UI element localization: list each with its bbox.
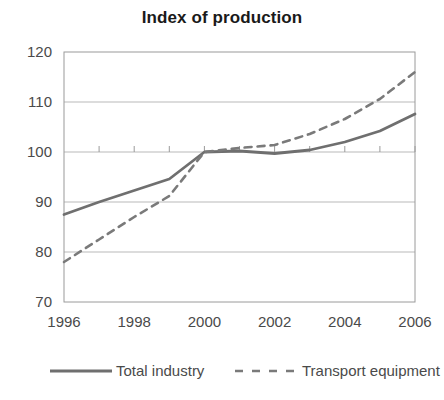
x-tick-label-2004: 2004 xyxy=(328,313,361,330)
legend-label-transport-equipment: Transport equipment xyxy=(302,362,441,379)
chart-plot: 120110100908070 199619982000200220042006… xyxy=(0,0,444,400)
series-line-transport-equipment xyxy=(64,72,415,262)
y-tick-label-70: 70 xyxy=(35,293,52,310)
legend-label-total-industry: Total industry xyxy=(116,362,205,379)
y-tick-label-80: 80 xyxy=(35,243,52,260)
y-tick-label-90: 90 xyxy=(35,193,52,210)
x-tick-label-1998: 1998 xyxy=(118,313,151,330)
y-axis-tick-labels: 120110100908070 xyxy=(27,43,52,310)
plot-frame xyxy=(64,52,415,302)
y-tick-label-110: 110 xyxy=(28,93,52,110)
x-tick-label-1996: 1996 xyxy=(47,313,80,330)
y-tick-label-120: 120 xyxy=(27,43,52,60)
x-axis-tick-labels: 199619982000200220042006 xyxy=(47,313,431,330)
series-line-total-industry xyxy=(64,114,415,215)
x-tick-label-2002: 2002 xyxy=(258,313,291,330)
plot-border xyxy=(64,52,415,302)
chart-legend: Total industryTransport equipment xyxy=(50,362,441,379)
gridlines-group xyxy=(64,102,415,252)
x-tick-label-2000: 2000 xyxy=(188,313,221,330)
data-series-group xyxy=(64,72,415,262)
x-tick-label-2006: 2006 xyxy=(398,313,431,330)
y-tick-label-100: 100 xyxy=(27,143,52,160)
chart-container: Index of production 120110100908070 1996… xyxy=(0,0,444,400)
